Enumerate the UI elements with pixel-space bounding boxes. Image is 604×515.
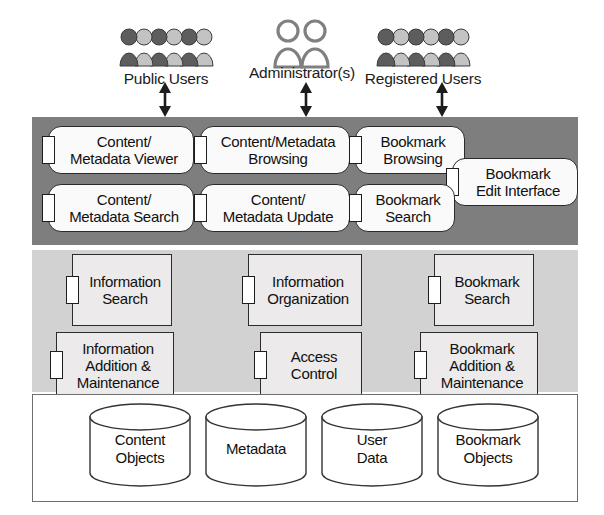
component-content-metadata-search[interactable]: Content/ Metadata Search <box>48 184 194 232</box>
datastore-label: Metadata <box>204 403 308 487</box>
component-label: Bookmark Search <box>444 273 523 307</box>
datastore-user-data-store[interactable]: User Data <box>320 403 424 487</box>
component-label: Bookmark Browsing <box>370 133 449 167</box>
component-label: Content/Metadata Browsing <box>211 133 339 167</box>
component-port-icon <box>66 276 79 304</box>
component-content-metadata-viewer[interactable]: Content/ Metadata Viewer <box>48 126 194 174</box>
component-information-addition-maintenance[interactable]: Information Addition & Maintenance <box>56 332 174 398</box>
component-label: Bookmark Edit Interface <box>466 165 564 199</box>
crowd-of-users-icon <box>343 24 503 70</box>
component-port-icon <box>42 136 55 164</box>
component-label: Content/ Metadata Search <box>59 191 183 225</box>
datastore-bookmark-objects-store[interactable]: Bookmark Objects <box>436 403 540 487</box>
component-label: Content/ Metadata Update <box>213 191 338 225</box>
component-port-icon <box>349 136 362 164</box>
component-label: Information Addition & Maintenance <box>67 340 164 391</box>
component-label: Bookmark Addition & Maintenance <box>431 340 528 391</box>
component-bookmark-browsing[interactable]: Bookmark Browsing <box>355 126 465 174</box>
component-port-icon <box>194 194 207 222</box>
component-bookmark-search-service[interactable]: Bookmark Search <box>434 254 534 326</box>
actor-connector-arrow <box>157 82 173 121</box>
component-content-metadata-update[interactable]: Content/ Metadata Update <box>200 184 350 232</box>
architecture-diagram: Public UsersAdministrator(s)Registered U… <box>0 0 604 515</box>
component-port-icon <box>194 136 207 164</box>
component-label: Content/ Metadata Viewer <box>60 133 182 167</box>
datastore-label: User Data <box>320 403 424 487</box>
component-label: Access Control <box>281 348 342 382</box>
component-port-icon <box>428 276 441 304</box>
component-information-organization[interactable]: Information Organization <box>248 254 362 326</box>
actor-label: Registered Users <box>343 70 503 87</box>
datastore-label: Content Objects <box>88 403 192 487</box>
actor-registered-users: Registered Users <box>343 24 503 87</box>
component-label: Information Organization <box>257 273 352 307</box>
component-bookmark-edit-interface[interactable]: Bookmark Edit Interface <box>452 158 578 206</box>
component-port-icon <box>414 351 427 379</box>
component-port-icon <box>42 194 55 222</box>
component-label: Bookmark Search <box>365 191 444 225</box>
component-bookmark-addition-maintenance[interactable]: Bookmark Addition & Maintenance <box>420 332 538 398</box>
component-access-control[interactable]: Access Control <box>260 332 362 398</box>
datastore-content-objects-store[interactable]: Content Objects <box>88 403 192 487</box>
actor-connector-arrow <box>298 82 314 121</box>
component-port-icon <box>254 351 267 379</box>
component-port-icon <box>242 276 255 304</box>
datastore-label: Bookmark Objects <box>436 403 540 487</box>
component-port-icon <box>50 351 63 379</box>
component-label: Information Search <box>79 273 165 307</box>
datastore-metadata-store[interactable]: Metadata <box>204 403 308 487</box>
actor-connector-arrow <box>434 82 450 121</box>
component-port-icon <box>349 194 362 222</box>
component-information-search[interactable]: Information Search <box>72 254 172 326</box>
component-content-metadata-browsing[interactable]: Content/Metadata Browsing <box>200 126 350 174</box>
component-bookmark-search[interactable]: Bookmark Search <box>355 184 455 232</box>
